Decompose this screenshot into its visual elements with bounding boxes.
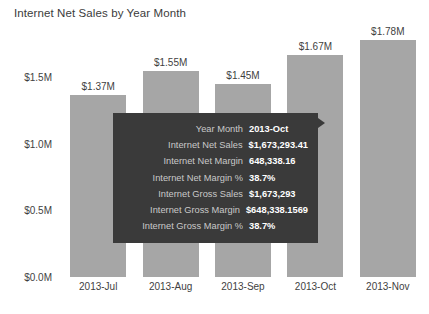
tooltip-rows: Year Month2013-OctInternet Net Sales$1,6… — [121, 121, 308, 234]
bar-value-label: $1.37M — [82, 81, 115, 92]
bar-value-label: $1.78M — [371, 26, 404, 37]
x-axis-tick-label: 2013-Sep — [221, 281, 264, 292]
x-axis-tick-label: 2013-Nov — [366, 281, 409, 292]
tooltip-row-value: 38.7% — [249, 170, 275, 186]
tooltip-row-value: $1,673,293 — [249, 186, 296, 202]
tooltip-row-value: $648,338.1569 — [246, 202, 308, 218]
y-axis-tick-label: $1.5M — [24, 72, 52, 83]
tooltip-row-value: 648,338.16 — [249, 153, 296, 169]
chart-title: Internet Net Sales by Year Month — [14, 7, 186, 19]
bar-value-label: $1.45M — [226, 70, 259, 81]
tooltip-row: Internet Gross Sales$1,673,293 — [121, 186, 308, 202]
bar[interactable] — [360, 40, 416, 277]
tooltip-row-label: Internet Gross Sales — [121, 186, 243, 202]
x-axis: 2013-Jul2013-Aug2013-Sep2013-Oct2013-Nov — [62, 281, 424, 301]
tooltip-row-label: Internet Net Sales — [121, 137, 243, 153]
tooltip-row: Internet Gross Margin$648,338.1569 — [121, 202, 308, 218]
bar-value-label: $1.67M — [299, 41, 332, 52]
tooltip-row: Year Month2013-Oct — [121, 121, 308, 137]
bar-value-label: $1.55M — [154, 57, 187, 68]
x-axis-tick-label: 2013-Oct — [295, 281, 336, 292]
tooltip-pointer-icon — [318, 118, 325, 128]
tooltip-row-label: Year Month — [121, 121, 243, 137]
data-tooltip: Year Month2013-OctInternet Net Sales$1,6… — [113, 113, 318, 243]
tooltip-row: Internet Net Margin648,338.16 — [121, 153, 308, 169]
bar-slot[interactable]: $1.78M — [360, 24, 416, 277]
tooltip-row: Internet Net Margin %38.7% — [121, 170, 308, 186]
y-axis-tick-label: $1.0M — [24, 138, 52, 149]
tooltip-row-label: Internet Gross Margin % — [121, 218, 243, 234]
tooltip-row: Internet Gross Margin %38.7% — [121, 218, 308, 234]
tooltip-row-label: Internet Net Margin % — [121, 170, 243, 186]
tooltip-row: Internet Net Sales$1,673,293.41 — [121, 137, 308, 153]
x-axis-tick-label: 2013-Jul — [79, 281, 117, 292]
tooltip-row-label: Internet Net Margin — [121, 153, 243, 169]
x-axis-tick-label: 2013-Aug — [149, 281, 192, 292]
y-axis: $0.0M$0.5M$1.0M$1.5M — [0, 24, 62, 277]
y-axis-tick-label: $0.0M — [24, 272, 52, 283]
y-axis-tick-label: $0.5M — [24, 205, 52, 216]
tooltip-row-value: 2013-Oct — [249, 121, 288, 137]
tooltip-row-value: $1,673,293.41 — [249, 137, 308, 153]
tooltip-row-value: 38.7% — [249, 218, 275, 234]
tooltip-row-label: Internet Gross Margin — [121, 202, 240, 218]
bar-chart: Internet Net Sales by Year Month $0.0M$0… — [0, 0, 429, 314]
